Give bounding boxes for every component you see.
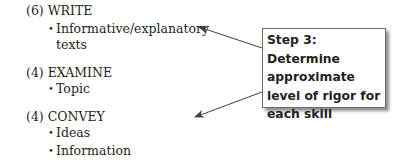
arrow-to-write <box>199 27 262 48</box>
step-callout-box: Step 3: Determine approximate level of r… <box>262 28 386 108</box>
arrow-to-convey <box>195 92 262 117</box>
